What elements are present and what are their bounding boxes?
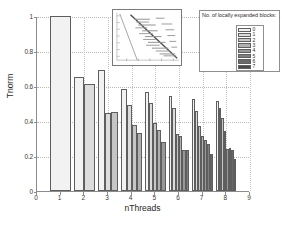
figure: Tnorm nThreads 00.20.40.60.81 0123456789 [0,0,282,225]
bar-group [50,17,70,191]
legend-swatch [238,49,251,53]
x-tick-label: 4 [124,194,138,201]
y-tick-label: 0.2 [0,153,33,160]
y-tick-label: 0.6 [0,83,33,90]
x-tick-label: 0 [29,194,43,201]
bar [105,113,112,191]
inset-plot [112,9,182,66]
x-tick-label: 3 [100,194,114,201]
x-tick-label: 2 [76,194,90,201]
legend-swatches: 01234567 [236,25,264,71]
legend-swatch [238,33,251,37]
y-tick-label: 0.8 [0,48,33,55]
x-tick-label: 1 [53,194,67,201]
bar [186,150,189,191]
bar [137,133,142,191]
bar-group [74,17,94,191]
legend-swatch [238,54,251,58]
bar [210,154,213,191]
legend-swatch [238,28,251,32]
bar [74,77,84,191]
legend-entry-label: 7 [253,64,256,69]
bar [234,159,237,191]
bar [50,16,70,191]
bar [111,112,118,191]
bar [98,70,105,191]
x-tick-label: 5 [147,194,161,201]
inset-steep-line [120,14,137,60]
legend-swatch [238,65,251,69]
bar [84,84,94,191]
y-tick-label: 0.4 [0,118,33,125]
inset-svg [113,10,181,65]
x-tick-label: 9 [242,194,256,201]
x-axis-label: nThreads [36,203,249,213]
legend-swatch [238,43,251,47]
x-tick-label: 6 [171,194,185,201]
legend-title: No. of locally expanded blocks: [202,12,279,18]
y-tick-label: 1 [0,13,33,20]
x-tick-label: 7 [195,194,209,201]
legend-entry: 7 [238,64,262,69]
x-tick-label: 8 [218,194,232,201]
legend: No. of locally expanded blocks: 01234567 [199,10,280,72]
legend-swatch [238,38,251,42]
legend-swatch [238,59,251,63]
bar [161,142,165,191]
